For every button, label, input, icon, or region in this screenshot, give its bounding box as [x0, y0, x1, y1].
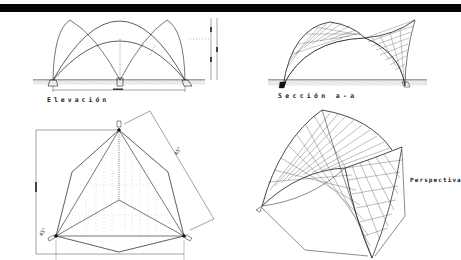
perspective-view	[256, 110, 405, 258]
elevation-label: Elevación	[47, 96, 109, 104]
plan-view	[35, 111, 214, 260]
section-label: Sección a-a	[278, 92, 357, 100]
perspective-label: Perspectiva	[410, 176, 461, 183]
drawing-canvas	[0, 0, 461, 260]
elevation-view	[33, 18, 218, 92]
section-view	[268, 20, 427, 88]
drawing-sheet: Elevación Sección a-a Perspectiva 45° 45…	[0, 0, 461, 260]
